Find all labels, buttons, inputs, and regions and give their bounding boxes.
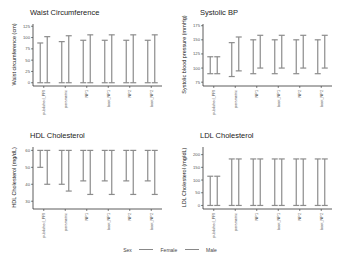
svg-text:NP2: NP2: [298, 90, 302, 97]
chart-hdl: 30405060HDL Cholesterol (mg/dL)published…: [0, 123, 170, 248]
svg-text:boot_NP1: boot_NP1: [277, 213, 281, 230]
svg-text:published_PRI: published_PRI: [212, 90, 216, 115]
svg-text:Waist circumference (cm): Waist circumference (cm): [11, 23, 17, 85]
svg-text:0: 0: [28, 80, 31, 85]
svg-text:100: 100: [193, 66, 201, 71]
panel-hdl: HDL Cholesterol 30405060HDL Cholesterol …: [0, 123, 170, 248]
svg-text:30: 30: [25, 199, 30, 204]
svg-text:125: 125: [193, 51, 201, 56]
svg-text:boot_NP2: boot_NP2: [150, 213, 154, 230]
panel-ldl: LDL Cholesterol 050100150200LDL Choleste…: [170, 123, 340, 248]
svg-text:75: 75: [25, 46, 30, 51]
svg-text:Systolic blood pressure (mmHg): Systolic blood pressure (mmHg): [181, 15, 187, 93]
panel-waist: Waist Circumference 0255075100125Waist c…: [0, 0, 170, 125]
chart-systolic: 75100125150175Systolic blood pressure (m…: [170, 0, 340, 125]
svg-text:published_PRI: published_PRI: [212, 213, 216, 238]
svg-text:100: 100: [23, 35, 31, 40]
svg-text:parametric: parametric: [234, 213, 238, 231]
panel-systolic: Systolic BP 75100125150175Systolic blood…: [170, 0, 340, 125]
svg-text:parametric: parametric: [234, 90, 238, 108]
svg-text:boot_NP1: boot_NP1: [107, 213, 111, 230]
legend-title: Sex: [123, 247, 132, 253]
chart-waist: 0255075100125Waist circumference (cm)pub…: [0, 0, 170, 125]
svg-text:200: 200: [193, 152, 201, 157]
svg-text:60: 60: [25, 148, 30, 153]
svg-text:150: 150: [193, 37, 201, 42]
svg-text:25: 25: [25, 69, 30, 74]
svg-text:175: 175: [193, 23, 201, 28]
svg-text:parametric: parametric: [64, 90, 68, 108]
svg-text:boot_NP1: boot_NP1: [277, 90, 281, 107]
svg-text:50: 50: [195, 190, 200, 195]
svg-text:NP2: NP2: [298, 213, 302, 220]
svg-text:published_PRI: published_PRI: [42, 90, 46, 115]
svg-text:boot_NP1: boot_NP1: [107, 90, 111, 107]
svg-text:boot_NP2: boot_NP2: [150, 90, 154, 107]
svg-text:LDL Cholesterol (mg/dL): LDL Cholesterol (mg/dL): [181, 147, 187, 207]
legend: Sex Female Male: [0, 246, 340, 253]
legend-label-female: Female: [161, 247, 178, 253]
svg-text:50: 50: [25, 58, 30, 63]
svg-text:NP1: NP1: [85, 213, 89, 220]
legend-swatch-female: [139, 249, 153, 251]
svg-text:boot_NP2: boot_NP2: [320, 213, 324, 230]
svg-text:75: 75: [195, 80, 200, 85]
svg-text:125: 125: [23, 24, 31, 29]
legend-swatch-male: [185, 249, 199, 251]
svg-text:NP2: NP2: [128, 213, 132, 220]
svg-text:NP2: NP2: [128, 90, 132, 97]
svg-text:published_PRI: published_PRI: [42, 213, 46, 238]
legend-label-male: Male: [206, 247, 217, 253]
svg-text:parametric: parametric: [64, 213, 68, 231]
svg-text:50: 50: [25, 165, 30, 170]
svg-text:boot_NP2: boot_NP2: [320, 90, 324, 107]
chart-ldl: 050100150200LDL Cholesterol (mg/dL)publi…: [170, 123, 340, 248]
svg-text:150: 150: [193, 165, 201, 170]
svg-text:HDL Cholesterol (mg/dL): HDL Cholesterol (mg/dL): [11, 147, 17, 208]
svg-text:100: 100: [193, 178, 201, 183]
svg-text:40: 40: [25, 182, 30, 187]
svg-text:0: 0: [198, 203, 201, 208]
svg-text:NP1: NP1: [85, 90, 89, 97]
svg-text:NP1: NP1: [255, 90, 259, 97]
svg-text:NP1: NP1: [255, 213, 259, 220]
